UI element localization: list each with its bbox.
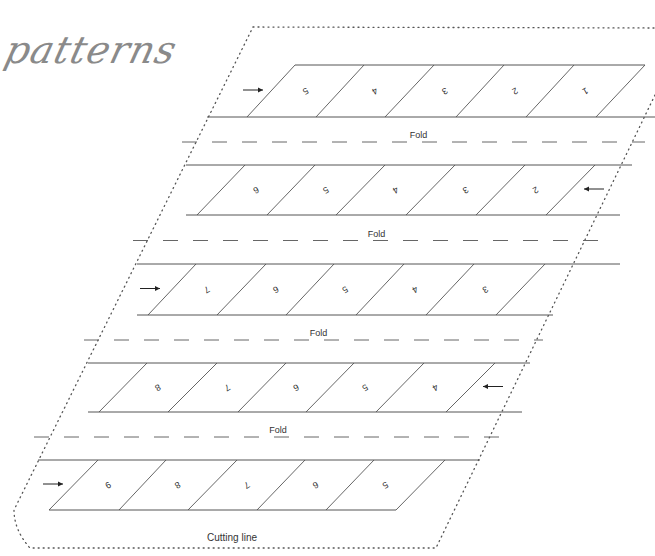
cell-number: 1 <box>581 85 590 96</box>
cell-number: 4 <box>370 85 379 96</box>
fold-line: Fold <box>34 425 512 437</box>
cutting-outline <box>14 27 655 548</box>
cell-number: 6 <box>291 382 300 393</box>
arrow-left-icon <box>584 187 604 192</box>
fold-label: Fold <box>310 328 328 338</box>
cell-number: 6 <box>271 284 280 295</box>
fold-line: Fold <box>133 229 610 241</box>
arrow-right-icon <box>140 286 160 291</box>
row-3: 76543 <box>137 264 620 315</box>
fold-line: Fold <box>182 130 645 142</box>
row-2: 65432 <box>186 165 632 215</box>
row-4: 87654 <box>88 363 530 412</box>
cell-number: 4 <box>410 284 419 295</box>
fold-label: Fold <box>368 229 386 239</box>
cell-number: 7 <box>242 479 251 490</box>
fold-label: Fold <box>410 130 428 140</box>
row-5: 98765 <box>38 460 480 510</box>
cell-number: 5 <box>321 184 330 195</box>
cell-number: 8 <box>173 479 182 490</box>
cell-number: 3 <box>461 184 470 195</box>
cutting-line-label: Cutting line <box>207 532 257 543</box>
pattern-diagram: 5432165432765438765498765 FoldFoldFoldFo… <box>0 0 655 556</box>
cutting-line <box>14 27 655 548</box>
fold-line: Fold <box>84 328 543 340</box>
cell-number: 5 <box>360 382 369 393</box>
cell-number: 9 <box>103 479 112 490</box>
cell-number: 4 <box>391 184 400 195</box>
cell-number: 5 <box>301 85 310 96</box>
row-1: 54321 <box>207 65 655 117</box>
cell-number: 5 <box>381 479 390 490</box>
cell-number: 2 <box>510 85 519 96</box>
cell-number: 3 <box>440 85 449 96</box>
cell-number: 3 <box>481 284 490 295</box>
cell-number: 7 <box>202 284 211 295</box>
cell-number: 6 <box>251 184 260 195</box>
cell-number: 7 <box>223 382 232 393</box>
cell-number: 2 <box>531 184 540 195</box>
cell-number: 8 <box>153 382 162 393</box>
arrow-right-icon <box>43 482 63 487</box>
cell-number: 5 <box>340 284 349 295</box>
arrow-right-icon <box>243 88 263 93</box>
cell-number: 4 <box>431 382 440 393</box>
arrow-left-icon <box>483 384 503 389</box>
cell-number: 6 <box>311 479 320 490</box>
fold-lines: FoldFoldFoldFold <box>34 130 645 437</box>
fold-label: Fold <box>269 425 287 435</box>
pattern-rows: 5432165432765438765498765 <box>38 65 655 510</box>
